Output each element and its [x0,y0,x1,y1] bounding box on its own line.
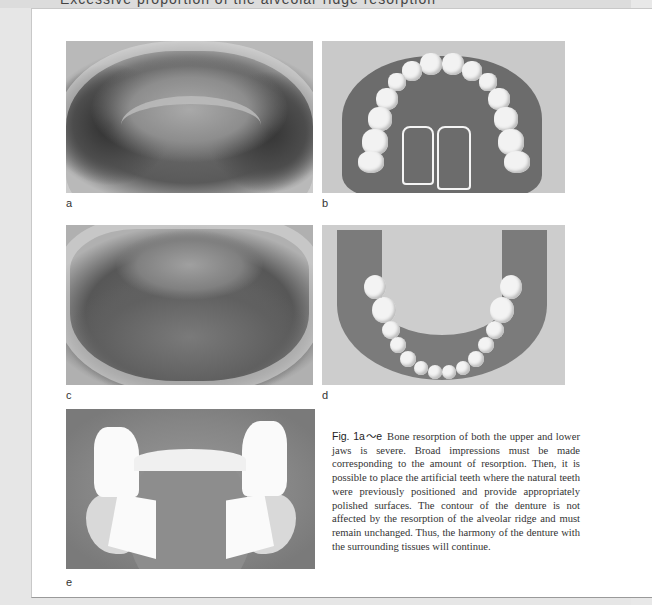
figure-label-a: a [66,197,72,209]
palate-marking [402,126,434,185]
tooth [372,297,396,323]
figure-number: Fig. 1a〜e [332,430,382,442]
tooth [368,107,392,131]
tooth [486,321,504,339]
left-margin [0,8,31,605]
tooth [490,297,514,323]
caption-text: Bone resorption of both the upper and lo… [332,431,580,552]
tooth [456,361,470,375]
previous-page-strip: Excessive proportion of the alveolar rid… [0,0,631,8]
cut-off-header-text: Excessive proportion of the alveolar rid… [60,0,436,7]
figure-e-denture-impression-photo [66,409,315,569]
tooth [420,53,442,75]
figure-d-lower-denture-photo [322,225,565,385]
figure-a-upper-jaw-photo [66,41,313,193]
tooth [358,151,384,173]
figure-label-d: d [322,389,328,401]
tooth [414,361,428,375]
tooth [428,365,442,379]
tooth [390,337,406,353]
palate-marking [437,126,471,190]
tooth [364,275,386,299]
figure-b-upper-denture-photo [322,41,565,193]
denture-arch [337,230,547,380]
alveolar-ridge [121,96,261,154]
tooth [500,275,522,299]
tooth [504,151,530,173]
tooth [494,107,518,131]
figure-label-c: c [66,389,72,401]
figure-c-lower-jaw-photo [66,225,313,385]
tooth [442,53,464,75]
figure-label-e: e [66,576,72,588]
cheek-retractor [66,225,313,385]
tooth [478,337,494,353]
left-wing [94,427,139,497]
bottom-margin [0,597,631,605]
right-wing [242,421,287,496]
figure-caption: Fig. 1a〜eBone resorption of both the upp… [332,430,580,553]
lingual-bar [134,449,246,471]
tooth [468,351,484,367]
figure-label-b: b [322,197,328,209]
tooth [442,365,456,379]
